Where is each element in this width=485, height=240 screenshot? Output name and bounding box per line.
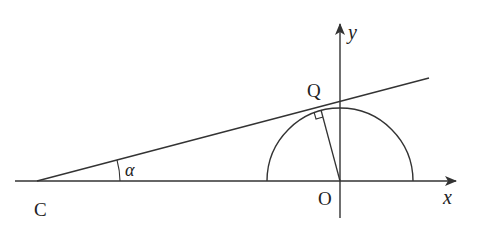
- radius-oq: [321, 110, 340, 181]
- tangent-line: [37, 78, 429, 181]
- label-x-axis: x: [442, 186, 452, 208]
- label-o: O: [318, 188, 332, 209]
- label-q: Q: [307, 80, 321, 101]
- angle-alpha-arc: [117, 160, 120, 181]
- label-y-axis: y: [346, 21, 357, 44]
- geometry-diagram: C O Q α x y: [0, 0, 485, 240]
- label-alpha: α: [125, 160, 135, 180]
- label-c: C: [34, 199, 47, 220]
